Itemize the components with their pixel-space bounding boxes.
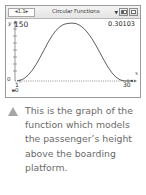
x-axis-arrow-icon — [134, 79, 137, 82]
window-titlebar: ◂1.1▸ Circular Functions ▼ — [6, 6, 140, 19]
curve-endpoint-marker[interactable] — [131, 80, 133, 82]
caption-text: This is the graph of the function which … — [25, 104, 133, 175]
chevron-down-icon[interactable]: ▼ — [115, 10, 118, 15]
origin-label: 0 — [7, 77, 11, 83]
x-axis-label: x — [135, 71, 138, 77]
value-readout: 0.30103 — [108, 21, 135, 28]
page-tab-indicator[interactable]: ◂1.1▸ — [8, 8, 35, 17]
triangle-bullet-icon — [8, 107, 18, 116]
x-tick-label-max: 30 — [123, 82, 131, 88]
close-icon[interactable] — [129, 8, 138, 16]
graph-plot — [6, 19, 140, 97]
document-title: Circular Functions — [35, 9, 113, 15]
slider-value: 0 — [15, 88, 19, 94]
calculator-window: ◂1.1▸ Circular Functions ▼ — [5, 5, 141, 98]
battery-icon — [119, 8, 128, 16]
y-axis-label: y — [8, 21, 11, 27]
caption-block: This is the graph of the function which … — [5, 104, 141, 175]
screenshot-root: ◂1.1▸ Circular Functions ▼ — [0, 0, 146, 195]
y-tick-label-150: 150 — [14, 21, 28, 29]
graph-canvas[interactable]: y x 150 1 30 0 0.30103 ▸▸ 0 — [6, 19, 140, 97]
window-buttons — [119, 8, 138, 16]
animation-slider[interactable]: ▸▸ 0 — [12, 88, 19, 94]
function-curve[interactable] — [17, 23, 132, 81]
